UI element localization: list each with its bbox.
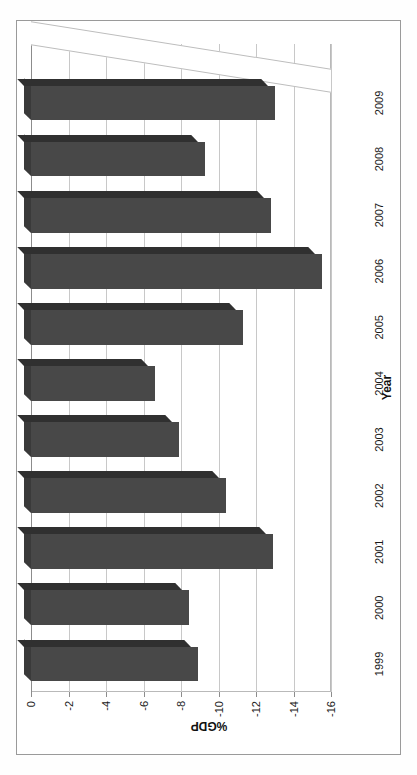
y-tick-mark	[294, 692, 295, 697]
bar-front-face	[31, 534, 273, 569]
y-tick-label: 0	[25, 701, 37, 707]
y-tick-label: -10	[213, 701, 225, 717]
y-tick-mark	[181, 692, 182, 697]
y-tick-mark	[69, 692, 70, 697]
plot-area: 0-2-4-6-8-10-12-14-16 199920002001200220…	[31, 44, 331, 692]
bar-2000[interactable]	[31, 590, 189, 625]
x-tick-label-2007: 2007	[373, 203, 385, 227]
y-tick-mark	[331, 692, 332, 697]
bar-side-face	[17, 527, 266, 534]
y-tick-label: -16	[325, 701, 337, 717]
x-tick-label-2006: 2006	[373, 259, 385, 283]
y-tick-mark	[144, 692, 145, 697]
y-tick-mark	[106, 692, 107, 697]
y-tick-label: -6	[138, 701, 150, 711]
bar-front-face	[31, 254, 322, 289]
y-tick-label: -14	[288, 701, 300, 717]
y-tick-label: -12	[250, 701, 262, 717]
y-tick-label: -2	[63, 701, 75, 711]
x-tick-label-2005: 2005	[373, 315, 385, 339]
x-tick-label-2003: 2003	[373, 427, 385, 451]
bar-2001[interactable]	[31, 534, 273, 569]
bar-side-face	[17, 79, 268, 86]
bar-side-face	[17, 471, 219, 478]
gridline-neg16	[331, 44, 332, 692]
bar-front-face	[31, 142, 205, 177]
screenshot-page: %GDP Year 0-2-4-6-8-10-12-14-16 19992000…	[0, 0, 417, 775]
bar-front-face	[31, 478, 226, 513]
bar-front-face	[31, 86, 275, 121]
chart-frame: %GDP Year 0-2-4-6-8-10-12-14-16 19992000…	[16, 20, 401, 755]
bar-side-face	[17, 583, 181, 590]
bar-2005[interactable]	[31, 310, 243, 345]
x-tick-label-2002: 2002	[373, 483, 385, 507]
y-tick-mark	[219, 692, 220, 697]
bar-front-face	[31, 422, 179, 457]
y-tick-mark	[256, 692, 257, 697]
bar-2008[interactable]	[31, 142, 205, 177]
x-tick-label-2004: 2004	[373, 371, 385, 395]
bar-front-face	[31, 590, 189, 625]
x-tick-label-2009: 2009	[373, 91, 385, 115]
bar-2003[interactable]	[31, 422, 179, 457]
y-axis-title: %GDP	[190, 719, 227, 733]
bar-side-face	[17, 415, 172, 422]
bar-1999[interactable]	[31, 647, 198, 682]
x-tick-label-2000: 2000	[373, 596, 385, 620]
bar-front-face	[31, 310, 243, 345]
rotated-chart-wrapper: %GDP Year 0-2-4-6-8-10-12-14-16 19992000…	[0, 0, 417, 775]
bar-2007[interactable]	[31, 198, 271, 233]
bar-side-face	[17, 191, 264, 198]
bar-side-face	[17, 247, 314, 254]
bar-2009[interactable]	[31, 86, 275, 121]
bar-side-face	[17, 640, 191, 647]
bar-side-face	[17, 303, 236, 310]
x-tick-label-2008: 2008	[373, 147, 385, 171]
gridline-neg10	[219, 44, 220, 692]
x-tick-label-1999: 1999	[373, 652, 385, 676]
bar-2002[interactable]	[31, 478, 226, 513]
bar-front-face	[31, 366, 155, 401]
x-tick-label-2001: 2001	[373, 540, 385, 564]
y-tick-label: -4	[100, 701, 112, 711]
bar-2006[interactable]	[31, 254, 322, 289]
bar-side-face	[17, 359, 148, 366]
bar-side-face	[17, 135, 198, 142]
gridline-neg14	[294, 44, 295, 692]
bar-2004[interactable]	[31, 366, 155, 401]
bar-front-face	[31, 198, 271, 233]
y-tick-label: -8	[175, 701, 187, 711]
gridline-neg12	[256, 44, 257, 692]
y-tick-mark	[31, 692, 32, 697]
bar-front-face	[31, 647, 198, 682]
